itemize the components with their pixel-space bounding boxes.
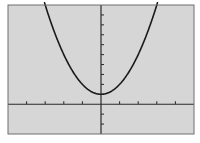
graphing-calculator-screen [0, 0, 200, 143]
